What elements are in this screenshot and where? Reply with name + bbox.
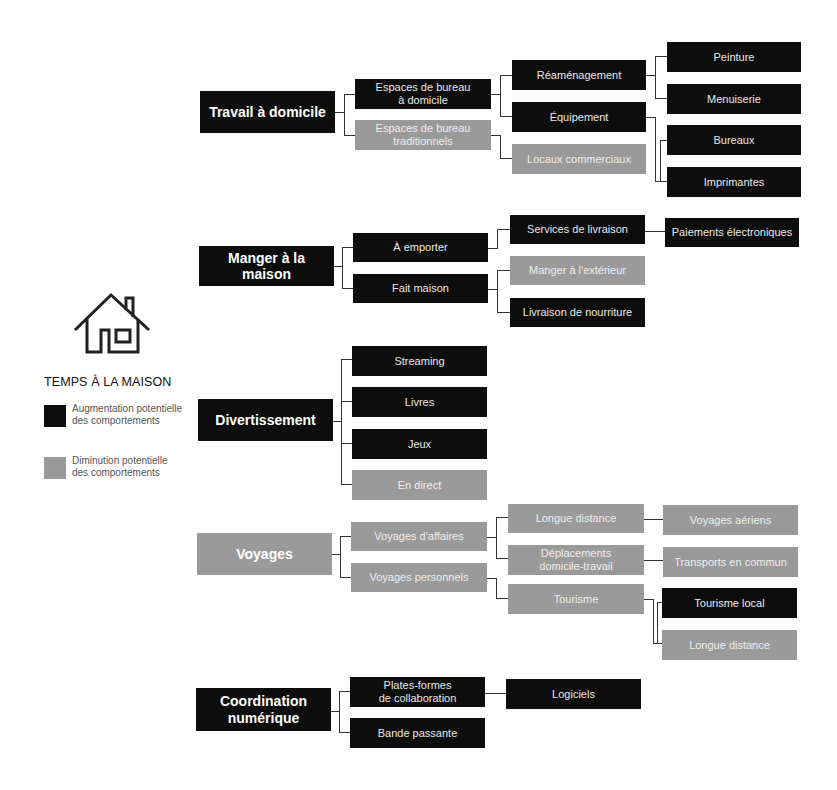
node-label: Longue distance — [536, 512, 617, 525]
connector — [339, 691, 350, 692]
connector — [653, 599, 654, 643]
node-label: Services de livraison — [527, 223, 628, 236]
node-label: Transports en commun — [674, 556, 787, 569]
connector — [340, 577, 351, 578]
connector — [497, 270, 498, 313]
connector — [644, 560, 663, 561]
node-transports-commun: Transports en commun — [663, 547, 798, 577]
node-plates-formes: Plates-formes de collaboration — [350, 677, 485, 707]
node-label: Longue distance — [689, 639, 770, 652]
node-locaux-commerciaux: Locaux commerciaux — [512, 144, 646, 174]
node-tourisme: Tourisme — [508, 584, 644, 614]
node-manger-exterieur: Manger à l'extérieur — [510, 256, 645, 285]
node-label: Menuiserie — [707, 93, 761, 106]
connector — [660, 140, 661, 182]
connector — [344, 135, 355, 136]
node-services-livraison: Services de livraison — [510, 215, 645, 244]
node-label: Imprimantes — [704, 176, 765, 189]
connector — [340, 536, 351, 537]
connector — [655, 56, 656, 99]
node-label-line2: à domicile — [398, 94, 448, 107]
node-tourisme-local: Tourisme local — [662, 588, 797, 618]
node-voyages: Voyages — [197, 533, 332, 575]
node-label: Bureaux — [714, 134, 755, 147]
connector — [342, 288, 353, 289]
legend-label-decrease: Diminution potentielle des comportements — [72, 455, 168, 479]
legend-increase-line2: des comportements — [72, 415, 182, 427]
node-divertissement: Divertissement — [198, 399, 333, 441]
node-label: Logiciels — [552, 688, 595, 701]
node-espaces-domicile: Espaces de bureau à domicile — [355, 79, 491, 109]
connector — [500, 75, 512, 76]
legend-decrease-line2: des comportements — [72, 467, 168, 479]
legend-swatch-decrease — [44, 457, 66, 479]
node-label: Manger à l'extérieur — [529, 264, 626, 277]
node-coordination: Coordination numérique — [196, 688, 331, 731]
node-travail: Travail à domicile — [200, 91, 335, 133]
connector — [655, 117, 656, 181]
connector — [644, 519, 663, 520]
connector — [341, 484, 352, 485]
node-paiements-electroniques: Paiements électroniques — [665, 218, 799, 247]
node-espaces-traditionnels: Espaces de bureau traditionnels — [355, 120, 491, 150]
connector — [497, 312, 510, 313]
node-label: Paiements électroniques — [672, 226, 792, 239]
connector — [342, 247, 343, 289]
connector — [485, 693, 506, 694]
connector — [500, 75, 501, 117]
connector — [341, 443, 352, 444]
node-label-line1: Déplacements — [541, 547, 611, 560]
node-label: Manger à la maison — [203, 250, 330, 282]
node-label-line1: Plates-formes — [384, 679, 452, 692]
connector — [340, 536, 341, 578]
node-reamenagement: Réaménagement — [512, 60, 646, 90]
connector — [496, 578, 497, 599]
node-label: Voyages aériens — [690, 514, 771, 527]
node-label: Tourisme — [554, 593, 599, 606]
connector — [500, 116, 512, 117]
connector — [496, 598, 508, 599]
connector — [655, 56, 667, 57]
node-logiciels: Logiciels — [506, 679, 641, 709]
node-streaming: Streaming — [352, 346, 487, 376]
node-livres: Livres — [352, 387, 487, 417]
connector — [500, 135, 501, 159]
node-a-emporter: À emporter — [353, 233, 488, 262]
node-label: Équipement — [550, 111, 609, 124]
node-label-line2: numérique — [228, 710, 300, 726]
node-label: Voyages d'affaires — [374, 530, 463, 543]
legend-swatch-increase — [44, 405, 66, 427]
connector — [497, 270, 510, 271]
node-label: Divertissement — [215, 412, 315, 428]
node-label: Livres — [405, 396, 434, 409]
connector — [645, 231, 665, 232]
node-label: Livraison de nourriture — [523, 306, 632, 319]
node-voyages-personnels: Voyages personnels — [351, 563, 487, 592]
connector — [657, 602, 662, 603]
node-livraison-nourriture: Livraison de nourriture — [510, 298, 645, 327]
connector — [496, 558, 508, 559]
connector — [339, 732, 350, 733]
node-label-line2: domicile-travail — [539, 560, 612, 573]
node-label-line1: Espaces de bureau — [376, 81, 471, 94]
node-label: Tourisme local — [694, 597, 764, 610]
node-label: Voyages personnels — [369, 571, 468, 584]
node-label-line1: Coordination — [220, 693, 307, 709]
node-label: Jeux — [408, 438, 431, 451]
node-label: Fait maison — [392, 282, 449, 295]
node-label: Travail à domicile — [209, 104, 326, 120]
connector — [497, 229, 498, 249]
node-equipement: Équipement — [512, 102, 646, 132]
connector — [500, 158, 512, 159]
connector — [657, 602, 658, 644]
legend-label-increase: Augmentation potentielle des comportemen… — [72, 403, 182, 427]
node-label: Streaming — [394, 355, 444, 368]
node-label: En direct — [398, 479, 441, 492]
connector — [655, 98, 667, 99]
node-label: Voyages — [236, 546, 293, 562]
node-label-line2: traditionnels — [393, 135, 452, 148]
node-en-direct: En direct — [352, 470, 487, 500]
node-label-line1: Espaces de bureau — [376, 122, 471, 135]
node-label: Bande passante — [378, 727, 458, 740]
connector — [497, 229, 510, 230]
